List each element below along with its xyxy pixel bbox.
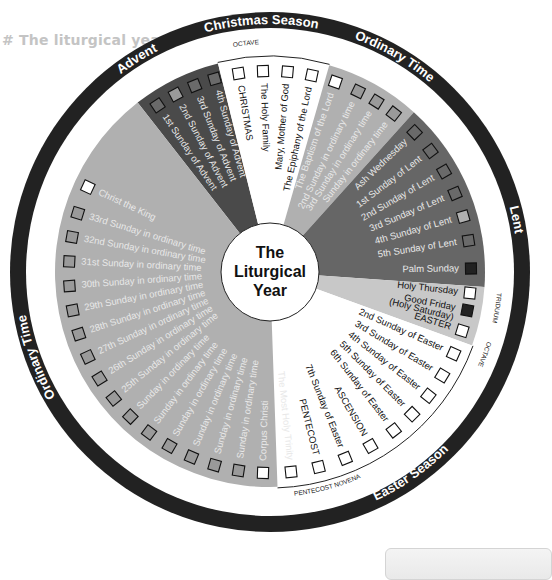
entry-checkbox[interactable]: [461, 304, 474, 317]
center-title-line-3: Year: [253, 282, 287, 299]
entry-checkbox[interactable]: [465, 263, 476, 274]
entry-checkbox[interactable]: [257, 467, 268, 478]
entry-checkbox[interactable]: [232, 464, 245, 477]
center-title-line-1: The: [256, 244, 285, 261]
bottom-panel: [385, 548, 552, 580]
entry-checkbox[interactable]: [232, 67, 245, 80]
entry-checkbox[interactable]: [464, 287, 476, 299]
entry-checkbox[interactable]: [312, 460, 325, 473]
entry-checkbox[interactable]: [66, 304, 79, 317]
entry-label: Corpus Christi: [257, 401, 270, 462]
entry-checkbox[interactable]: [282, 66, 294, 78]
entry-checkbox[interactable]: [71, 206, 85, 220]
entry-checkbox[interactable]: [285, 466, 297, 478]
entry-checkbox[interactable]: [66, 231, 79, 244]
calendar-entry[interactable]: Palm Sunday: [402, 262, 476, 274]
entry-checkbox[interactable]: [208, 72, 222, 86]
entry-checkbox[interactable]: [462, 234, 475, 247]
entry-checkbox[interactable]: [257, 65, 268, 76]
entry-checkbox[interactable]: [305, 69, 318, 82]
center-title-line-2: Liturgical: [234, 263, 306, 280]
entry-checkbox[interactable]: [456, 210, 470, 224]
entry-label: Palm Sunday: [402, 262, 459, 274]
entry-checkbox[interactable]: [208, 458, 222, 472]
entry-checkbox[interactable]: [455, 324, 469, 338]
entry-checkbox[interactable]: [64, 280, 76, 292]
entry-checkbox[interactable]: [63, 256, 75, 268]
